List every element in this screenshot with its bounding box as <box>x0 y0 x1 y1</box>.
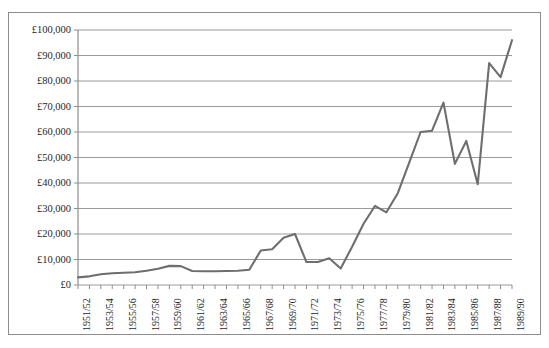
y-tick-label: £10,000 <box>6 254 71 265</box>
gridlines-group <box>78 30 512 285</box>
y-tick-label: £80,000 <box>6 76 71 87</box>
x-tick-label: 1953/54 <box>105 298 115 331</box>
y-tick-label: £30,000 <box>6 203 71 214</box>
chart-figure: £0£10,000£20,000£30,000£40,000£50,000£60… <box>0 0 549 348</box>
x-tick-label: 1983/84 <box>447 298 457 331</box>
x-tick-label: 1963/64 <box>219 298 229 331</box>
x-tick-label: 1959/60 <box>173 298 183 331</box>
x-tick-label: 1961/62 <box>196 298 206 331</box>
x-tick-label: 1979/80 <box>402 298 412 331</box>
y-tick-label: £70,000 <box>6 101 71 112</box>
y-tick-label: £50,000 <box>6 152 71 163</box>
x-tick-label: 1965/66 <box>242 298 252 331</box>
x-tick-label: 1969/70 <box>288 298 298 331</box>
x-tick-label: 1985/86 <box>470 298 480 331</box>
data-series-line <box>78 40 512 277</box>
x-tick-label: 1971/72 <box>310 298 320 331</box>
x-tick-label: 1987/88 <box>493 298 503 331</box>
y-tick-label: £20,000 <box>6 229 71 240</box>
y-tick-label: £40,000 <box>6 178 71 189</box>
x-tick-label: 1989/90 <box>516 298 526 331</box>
y-tick-label: £0 <box>6 280 71 291</box>
x-tick-label: 1975/76 <box>356 298 366 331</box>
x-tick-label: 1981/82 <box>425 298 435 331</box>
x-tick-label: 1973/74 <box>333 298 343 331</box>
y-tick-label: £100,000 <box>6 25 71 36</box>
x-tick-marks-group <box>78 285 512 289</box>
x-tick-label: 1967/68 <box>265 298 275 331</box>
y-tick-label: £60,000 <box>6 127 71 138</box>
chart-plot-area <box>0 0 549 348</box>
x-tick-label: 1955/56 <box>128 298 138 331</box>
x-tick-label: 1951/52 <box>82 298 92 331</box>
x-tick-label: 1957/58 <box>151 298 161 331</box>
y-tick-label: £90,000 <box>6 50 71 61</box>
x-tick-label: 1977/78 <box>379 298 389 331</box>
